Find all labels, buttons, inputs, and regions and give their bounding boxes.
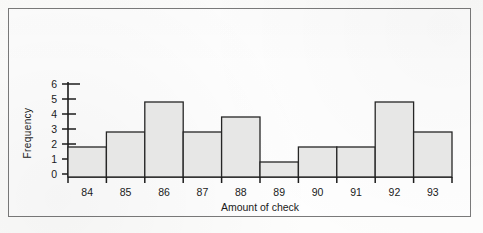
- x-tick-label-93: 93: [427, 186, 439, 198]
- bar-90: [298, 147, 336, 177]
- x-tick-label-90: 90: [312, 186, 324, 198]
- bars-group: [68, 102, 452, 177]
- bar-87: [183, 132, 221, 177]
- x-tick-label-87: 87: [197, 186, 209, 198]
- x-tick-label-85: 85: [120, 186, 132, 198]
- bar-93: [414, 132, 452, 177]
- bar-84: [68, 147, 106, 177]
- y-tick-label: 6: [51, 78, 57, 90]
- bar-89: [260, 162, 298, 177]
- bar-91: [337, 147, 375, 177]
- x-tick-label-89: 89: [273, 186, 285, 198]
- figure-container: Frequency 6 5 4 3 2 1 0: [0, 0, 483, 233]
- x-axis-title: Amount of check: [221, 201, 300, 213]
- y-tick-label: 0: [51, 168, 57, 180]
- y-axis-title: Frequency: [22, 108, 33, 159]
- x-tick-label-91: 91: [350, 186, 362, 198]
- y-tick-label: 2: [51, 138, 57, 150]
- x-tick-label-88: 88: [235, 186, 247, 198]
- bar-85: [106, 132, 144, 177]
- x-tick-label-86: 86: [158, 186, 170, 198]
- y-tick-labels: 6 5 4 3 2 1 0: [51, 78, 57, 180]
- y-tick-label: 4: [51, 108, 57, 120]
- bar-86: [145, 102, 183, 177]
- x-tick-marks: [68, 177, 452, 183]
- histogram-chart: Frequency 6 5 4 3 2 1 0: [0, 0, 483, 233]
- x-tick-labels: 84 85 86 87 88 89 90 91 92 93: [81, 186, 438, 198]
- x-tick-label-92: 92: [389, 186, 401, 198]
- bar-92: [375, 102, 413, 177]
- y-tick-label: 1: [51, 153, 57, 165]
- y-tick-label: 3: [51, 123, 57, 135]
- y-tick-label: 5: [51, 93, 57, 105]
- x-tick-label-84: 84: [81, 186, 93, 198]
- bar-88: [222, 117, 260, 177]
